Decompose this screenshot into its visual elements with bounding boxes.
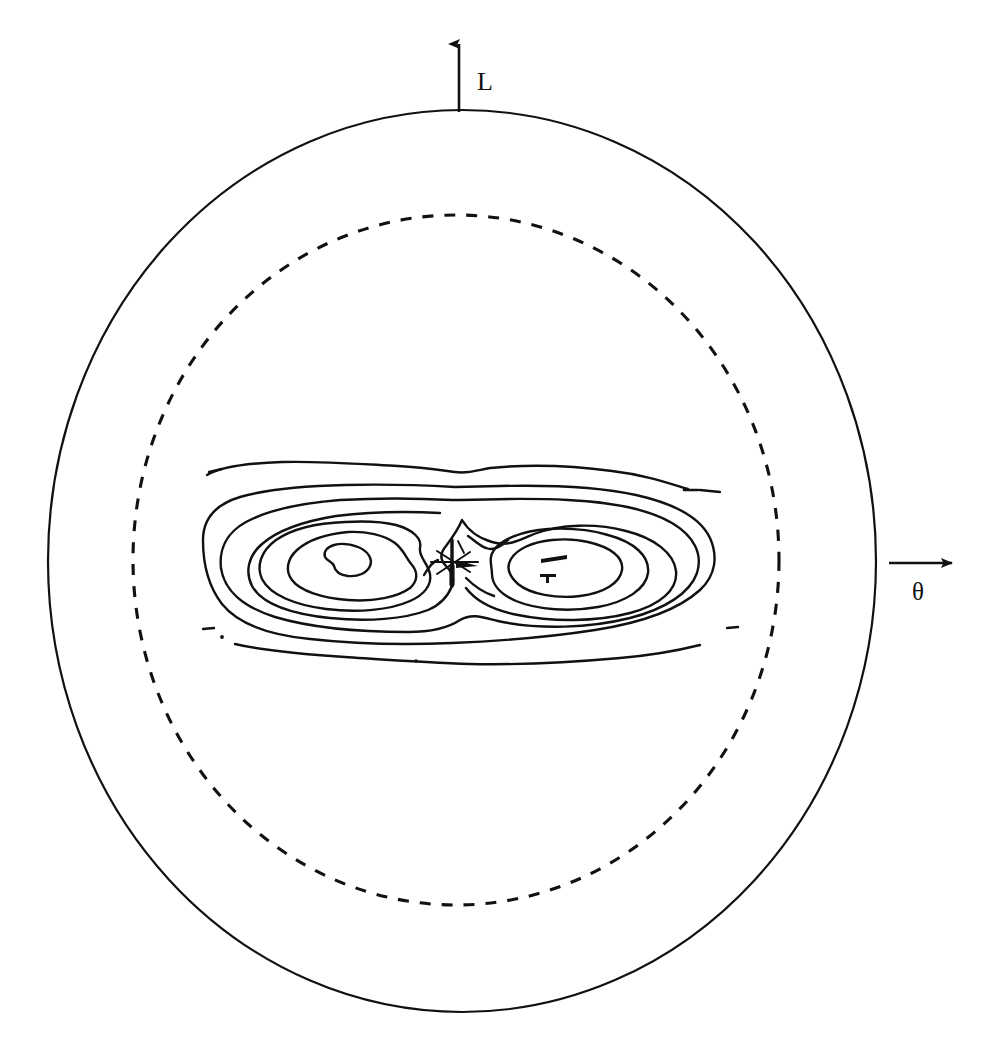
stray-dash-left-lower — [203, 628, 214, 629]
contour-level-5-left-lobe — [260, 521, 431, 610]
right-lobe-tick-lower — [540, 574, 556, 583]
interior-marks-group — [540, 555, 567, 583]
stray-dot-left-lower — [220, 635, 224, 639]
vertical-axis-label: L — [477, 67, 493, 96]
outermost-contour-upper — [207, 462, 688, 489]
stray-dash-right-lower — [727, 627, 738, 628]
central-saddle-singularity — [431, 540, 478, 586]
pole-figure-plot: L θ — [0, 0, 982, 1041]
outermost-contour-upper-tail — [700, 490, 720, 492]
contour-figure-container: L θ — [0, 0, 982, 1041]
contour-level-6-left-lobe — [288, 532, 416, 601]
peak-contour-left-lobe — [324, 544, 370, 576]
stray-dot-bottom-center — [414, 659, 418, 663]
right-lobe-tick-upper — [541, 555, 567, 563]
horizontal-axis-label: θ — [912, 578, 924, 605]
stray-dash-left-upper — [209, 469, 222, 472]
outermost-contour-lower — [235, 644, 700, 664]
contour-level-6-right-lobe — [509, 539, 623, 596]
